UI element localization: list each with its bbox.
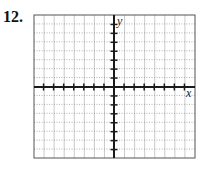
coordinate-grid: y x xyxy=(0,0,204,170)
x-axis-label: x xyxy=(185,86,192,100)
y-axis-label: y xyxy=(116,14,123,28)
